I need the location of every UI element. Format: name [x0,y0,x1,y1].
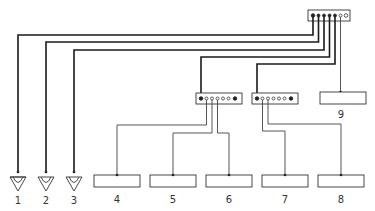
device-label-9: 9 [338,109,344,120]
device-6: 6 [206,174,252,205]
device-label-7: 7 [282,194,288,205]
sub-b-device-wires [263,100,342,175]
speaker-3: 3 [66,171,82,206]
sub-distributor-a [196,93,242,104]
device-9: 9 [320,92,366,120]
sub-a-device-wires [117,100,229,175]
device-label-6: 6 [226,194,232,205]
device-7: 7 [262,174,308,205]
device-8: 8 [318,174,364,205]
speaker-2: 2 [38,171,54,206]
speaker-label-1: 1 [15,195,21,206]
distributor-feed-wires [201,17,335,98]
sub-distributor-b [252,93,298,104]
device-label-4: 4 [114,194,120,205]
wiring-diagram: 1 2 3 4 5 6 7 8 9 [0,0,375,211]
speaker-1: 1 [10,171,26,206]
speaker-label-3: 3 [71,195,77,206]
device-5: 5 [150,174,196,205]
device-label-8: 8 [338,194,344,205]
speaker-label-2: 2 [43,195,49,206]
device-label-5: 5 [170,194,176,205]
device-4: 4 [94,174,140,205]
